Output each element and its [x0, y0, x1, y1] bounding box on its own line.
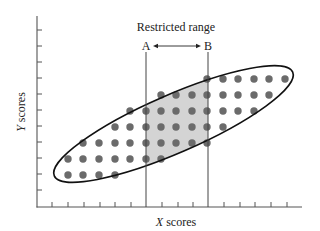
x-axis-ticks [52, 202, 287, 207]
data-point [111, 123, 118, 130]
restricted-range-diagram: Restricted range A B X scores Y scores [0, 0, 320, 231]
scatter-figure: Restricted range A B X scores Y scores [0, 0, 320, 231]
data-point [203, 123, 210, 130]
data-point [111, 155, 118, 162]
y-axis-label: Y scores [14, 92, 28, 132]
data-point [219, 123, 226, 130]
data-point [265, 75, 272, 82]
data-point [203, 91, 210, 98]
data-point [234, 107, 241, 114]
marker-b-label: B [204, 39, 212, 53]
data-point [79, 155, 86, 162]
data-point [219, 107, 226, 114]
y-axis-text: scores [14, 92, 28, 125]
data-point [281, 75, 288, 82]
data-point [64, 171, 71, 178]
data-point [188, 91, 195, 98]
data-point [172, 107, 179, 114]
restricted-range-title: Restricted range [137, 20, 215, 34]
data-point [126, 123, 133, 130]
data-point [265, 91, 272, 98]
arrow-left-icon [153, 44, 158, 48]
data-point [172, 123, 179, 130]
data-point [188, 107, 195, 114]
x-axis-label: X scores [155, 215, 197, 229]
data-point [250, 91, 257, 98]
range-arrow [153, 44, 201, 48]
data-point [203, 107, 210, 114]
y-axis-ticks [37, 30, 42, 190]
data-point [126, 139, 133, 146]
data-point [126, 155, 133, 162]
data-point [234, 91, 241, 98]
arrow-right-icon [196, 44, 201, 48]
data-point [95, 171, 102, 178]
x-axis-text: scores [163, 215, 196, 229]
data-point [111, 139, 118, 146]
data-point [79, 171, 86, 178]
data-point [157, 123, 164, 130]
data-point [234, 75, 241, 82]
data-point [157, 107, 164, 114]
data-point [157, 139, 164, 146]
data-point [95, 139, 102, 146]
data-point [219, 91, 226, 98]
data-point [95, 155, 102, 162]
data-point [172, 139, 179, 146]
data-point [64, 155, 71, 162]
data-point [188, 123, 195, 130]
data-point [250, 75, 257, 82]
marker-a-label: A [142, 39, 151, 53]
